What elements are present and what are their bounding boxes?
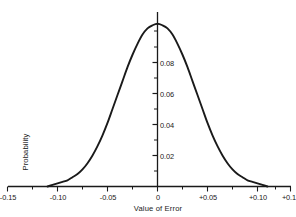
chart-plot-area bbox=[0, 0, 296, 217]
y-tick-label: 0.02 bbox=[160, 151, 174, 160]
y-axis-title: Probability bbox=[21, 133, 30, 170]
x-tick-label: +0.15 bbox=[282, 193, 296, 202]
x-tick-label: -0.10 bbox=[50, 193, 66, 202]
x-tick-label: -0.05 bbox=[100, 193, 116, 202]
y-tick-label: 0.06 bbox=[160, 89, 174, 98]
x-tick-label: 0 bbox=[156, 193, 160, 202]
x-tick-label: +0.05 bbox=[199, 193, 217, 202]
x-axis-major-ticks bbox=[8, 187, 291, 192]
normal-distribution-chart: -0.15 -0.10 -0.05 0 +0.05 +0.10 +0.15 0.… bbox=[0, 0, 296, 217]
x-tick-label: -0.15 bbox=[0, 193, 16, 202]
y-tick-label: 0.08 bbox=[160, 58, 174, 67]
x-axis-title: Value of Error bbox=[134, 204, 182, 213]
x-tick-label: +0.10 bbox=[249, 193, 267, 202]
y-tick-label: 0.04 bbox=[160, 120, 174, 129]
